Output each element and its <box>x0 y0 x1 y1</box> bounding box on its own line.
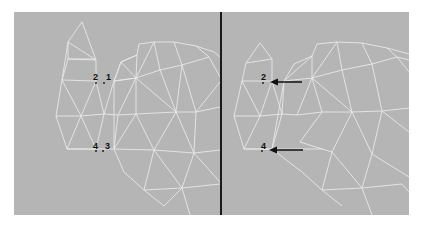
left-wireframe-mesh <box>14 12 220 215</box>
right-wireframe-mesh <box>222 12 409 215</box>
vertex-label-3: 3 <box>105 142 110 151</box>
vertex-point-4 <box>95 150 97 152</box>
vertex-point-4 <box>261 150 263 152</box>
vertex-label-1: 1 <box>106 73 111 82</box>
left-mesh-panel: 2 1 4 3 <box>14 12 220 215</box>
vertex-point-2 <box>95 82 97 84</box>
vertex-point-2 <box>262 82 264 84</box>
vertex-point-1 <box>103 82 105 84</box>
vertex-point-3 <box>102 150 104 152</box>
vertex-label-2: 2 <box>261 73 266 82</box>
vertex-label-2: 2 <box>93 73 98 82</box>
right-mesh-panel: 2 4 <box>222 12 409 215</box>
